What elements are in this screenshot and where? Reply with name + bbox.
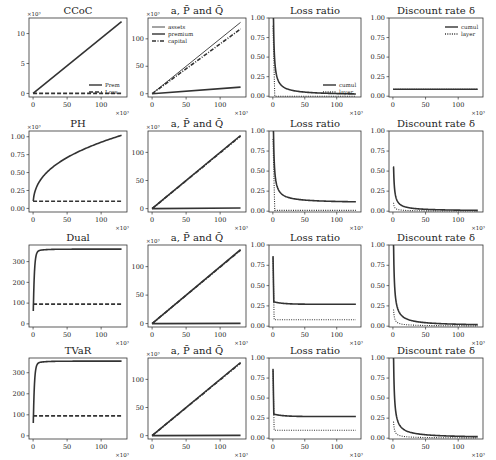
- subplot-title: TVaR: [65, 345, 92, 356]
- y-tick-label: 0.25: [251, 187, 265, 195]
- legend: assetspremiumcapital: [152, 24, 194, 45]
- subplot-discount-rate--r2c3: Discount rate δ0.000.250.500.751.0005010…: [371, 232, 485, 346]
- x-tick-label: 0: [271, 443, 275, 451]
- x-tick-label: 0: [31, 331, 35, 339]
- axes-frame: [269, 358, 361, 439]
- x-tick-label: 50: [301, 331, 309, 339]
- y-tick-label: 1.00: [11, 133, 25, 141]
- chart-grid: CCoC0510050100×10³×10³PremLossa, P̄ and …: [0, 0, 496, 460]
- legend-label: assets: [168, 24, 185, 30]
- y-tick-label: 0.50: [251, 282, 265, 290]
- y-tick-label: 50: [136, 177, 144, 185]
- x-tick-label: 0: [391, 216, 395, 224]
- x-tick-label: 100: [452, 331, 464, 339]
- x-tick-label: 100: [214, 216, 226, 224]
- x-multiplier: ×10³: [349, 110, 363, 116]
- x-tick-label: 50: [63, 331, 71, 339]
- axes-frame: [389, 358, 483, 439]
- x-tick-label: 50: [421, 101, 429, 109]
- x-tick-label: 50: [63, 216, 71, 224]
- y-tick-label: 0.50: [371, 394, 385, 402]
- y-tick-label: 0.75: [251, 34, 265, 42]
- y-tick-label: 1.00: [371, 127, 385, 135]
- y-tick-label: 100: [13, 299, 25, 307]
- y-tick-label: 5: [21, 60, 25, 68]
- x-tick-label: 100: [331, 216, 343, 224]
- y-tick-label: 200: [13, 390, 25, 398]
- axes-frame: [29, 131, 127, 212]
- y-tick-label: 0.50: [371, 167, 385, 175]
- axes-frame: [29, 358, 127, 439]
- subplot-discount-rate--r3c3: Discount rate δ0.000.250.500.751.0005010…: [371, 345, 485, 458]
- subplot-title: a, P̄ and Q̄: [171, 5, 223, 16]
- series-cumul: [393, 358, 478, 437]
- axes-frame: [269, 131, 361, 212]
- x-tick-label: 0: [31, 443, 35, 451]
- series-cumul: [273, 256, 356, 304]
- x-tick-label: 0: [271, 216, 275, 224]
- x-multiplier: ×10³: [471, 225, 485, 231]
- x-tick-label: 0: [31, 216, 35, 224]
- series-cumul: [393, 167, 478, 210]
- x-tick-label: 50: [182, 443, 190, 451]
- y-tick-label: 0.75: [371, 34, 385, 42]
- subplot-ccoc-r0c0: CCoC0510050100×10³×10³PremLoss: [17, 5, 129, 116]
- x-tick-label: 50: [421, 331, 429, 339]
- x-multiplier: ×10³: [234, 225, 248, 231]
- legend-label: cumul: [461, 24, 478, 30]
- y-tick-label: 10: [17, 30, 25, 38]
- x-tick-label: 100: [95, 216, 107, 224]
- y-tick-label: 0.75: [371, 261, 385, 269]
- series-cumul: [273, 131, 356, 202]
- y-multiplier: ×10³: [146, 124, 160, 130]
- subplot-title: Loss ratio: [290, 345, 340, 356]
- subplot-title: Loss ratio: [290, 118, 340, 129]
- subplot-title: a, P̄ and Q̄: [171, 118, 223, 129]
- axes-frame: [29, 245, 127, 327]
- y-tick-label: 0.50: [251, 53, 265, 61]
- y-tick-label: 1.00: [251, 241, 265, 249]
- x-multiplier: ×10³: [234, 110, 248, 116]
- series-premium: [152, 208, 240, 209]
- y-tick-label: 0.75: [371, 147, 385, 155]
- x-tick-label: 0: [31, 101, 35, 109]
- y-multiplier: ×10³: [146, 11, 160, 17]
- y-tick-label: 0: [140, 90, 144, 98]
- y-tick-label: 0.25: [251, 414, 265, 422]
- x-tick-label: 100: [95, 443, 107, 451]
- legend-label: premium: [168, 31, 194, 38]
- y-multiplier: ×10³: [27, 124, 41, 130]
- series-prem: [33, 361, 121, 423]
- series-capital: [152, 29, 240, 94]
- y-tick-label: 0.25: [251, 302, 265, 310]
- x-tick-label: 100: [452, 101, 464, 109]
- x-tick-label: 100: [214, 101, 226, 109]
- y-tick-label: 1.00: [251, 127, 265, 135]
- x-multiplier: ×10³: [115, 110, 129, 116]
- subplot-a-p-and-q--r1c1: a, P̄ and Q̄050100050100×10³×10³: [132, 118, 248, 231]
- y-tick-label: 0.00: [251, 92, 265, 100]
- subplot-title: a, P̄ and Q̄: [171, 232, 223, 243]
- y-tick-label: 200: [13, 279, 25, 287]
- y-tick-label: 0.25: [371, 73, 385, 81]
- subplot-title: Discount rate δ: [397, 232, 475, 243]
- x-tick-label: 100: [95, 331, 107, 339]
- x-multiplier: ×10³: [234, 452, 248, 458]
- x-tick-label: 0: [150, 216, 154, 224]
- y-tick-label: 0.75: [371, 374, 385, 382]
- subplot-title: Loss ratio: [290, 5, 340, 16]
- x-tick-label: 0: [391, 101, 395, 109]
- x-tick-label: 50: [301, 443, 309, 451]
- y-tick-label: 50: [136, 291, 144, 299]
- y-tick-label: 100: [132, 263, 144, 271]
- x-tick-label: 0: [391, 443, 395, 451]
- series-layer: [273, 139, 356, 210]
- series-capital: [152, 363, 240, 436]
- series-capital: [152, 136, 240, 209]
- subplot-a-p-and-q--r3c1: a, P̄ and Q̄050100050100×10³×10³: [132, 345, 248, 458]
- subplot-a-p-and-q--r0c1: a, P̄ and Q̄050100050100×10³×10³assetspr…: [132, 5, 248, 116]
- y-tick-label: 0.50: [371, 282, 385, 290]
- y-tick-label: 0.00: [11, 205, 25, 213]
- x-tick-label: 50: [63, 101, 71, 109]
- x-tick-label: 0: [271, 331, 275, 339]
